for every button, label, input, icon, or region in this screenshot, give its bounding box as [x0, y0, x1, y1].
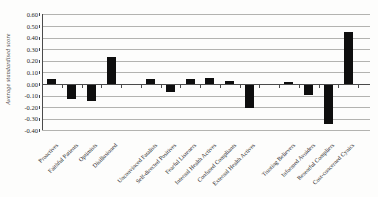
- y-axis-tick: [39, 95, 40, 98]
- y-tick-label: 0.30: [12, 46, 38, 53]
- y-tick-label: 0.60: [12, 11, 38, 18]
- y-tick-label: 0.50: [12, 23, 38, 30]
- category-axis-tick: [101, 85, 102, 88]
- bar-external-health-actives: [245, 85, 254, 108]
- bar-unconvinced-fatalists: [146, 79, 155, 84]
- gridline: [42, 61, 370, 62]
- bar-trusting-believers: [284, 82, 293, 84]
- y-tick-label: 0.20: [12, 57, 38, 64]
- y-tick-label: -0.10: [12, 92, 38, 99]
- bar-faithful-patients: [67, 85, 76, 99]
- category-axis-tick: [200, 85, 201, 88]
- category-axis-tick: [338, 85, 339, 88]
- gridline: [42, 26, 370, 27]
- y-axis-tick: [39, 60, 40, 63]
- gridline: [42, 49, 370, 50]
- y-axis-tick: [39, 37, 40, 40]
- y-tick-label: 0.40: [12, 34, 38, 41]
- bar-internal-health-actives: [205, 78, 214, 84]
- y-axis-tick: [39, 83, 40, 86]
- category-axis-tick: [121, 85, 122, 88]
- category-axis-tick: [82, 85, 83, 88]
- category-axis-tick: [358, 85, 359, 88]
- y-axis-title: Average standardised score: [5, 0, 11, 139]
- category-axis-tick: [220, 85, 221, 88]
- y-axis-tick: [39, 118, 40, 121]
- bar-fearful-listeners: [186, 79, 195, 84]
- category-axis-tick: [299, 85, 300, 88]
- category-axis-tick: [240, 85, 241, 88]
- y-axis-tick: [39, 48, 40, 51]
- y-tick-label: -0.30: [12, 115, 38, 122]
- y-axis-tick: [39, 106, 40, 109]
- category-axis-tick: [279, 85, 280, 88]
- category-axis-tick: [259, 85, 260, 88]
- bar-disillusioned: [107, 57, 116, 84]
- y-axis-tick: [39, 129, 40, 132]
- y-tick-label: -0.20: [12, 104, 38, 111]
- bar-optimists: [87, 85, 96, 101]
- y-axis-tick: [39, 13, 40, 16]
- category-axis-tick: [42, 85, 43, 88]
- gridline: [42, 72, 370, 73]
- y-axis-line: [42, 14, 43, 130]
- gridline: [42, 130, 370, 131]
- bar-resentful-compliers: [324, 85, 333, 124]
- y-tick-label: -0.40: [12, 127, 38, 134]
- bar-confused-compliants: [225, 81, 234, 84]
- y-axis-tick: [39, 25, 40, 28]
- bar-informed-avoiders: [304, 85, 313, 95]
- category-axis-tick: [180, 85, 181, 88]
- y-tick-label: 0.10: [12, 69, 38, 76]
- bar-proactives: [47, 79, 56, 84]
- bar-self-directed-positives: [166, 85, 175, 92]
- category-axis-tick: [141, 85, 142, 88]
- gridline: [42, 38, 370, 39]
- gridline: [42, 14, 370, 15]
- y-tick-label: 0.00: [12, 81, 38, 88]
- gridline: [42, 119, 370, 120]
- y-axis-tick: [39, 71, 40, 74]
- category-axis-tick: [62, 85, 63, 88]
- category-axis-tick: [319, 85, 320, 88]
- gridline: [42, 107, 370, 108]
- category-axis-tick: [161, 85, 162, 88]
- bar-chart-figure: Average standardised score 0.600.500.400…: [0, 0, 378, 197]
- bar-cost-concerned-cynics: [344, 32, 353, 84]
